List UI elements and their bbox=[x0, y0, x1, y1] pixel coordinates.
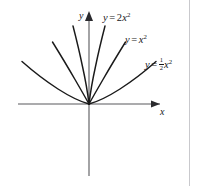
curve-label-2x-squared: y=2x2 bbox=[103, 13, 130, 24]
curve-label-half-x-squared-eq: = bbox=[150, 59, 159, 70]
curve-2x2-left-branch bbox=[73, 26, 89, 104]
y-axis-arrowhead bbox=[85, 11, 93, 21]
curve-label-x-squared-eq: = bbox=[130, 34, 139, 45]
curve-2x2-right-branch bbox=[89, 26, 105, 104]
curve-label-half-x-squared-exp: 2 bbox=[169, 58, 173, 65]
plot-canvas bbox=[0, 0, 198, 186]
x-axis-label: x bbox=[160, 107, 164, 117]
fraction-denominator: 2 bbox=[159, 65, 163, 72]
curve-label-2x-squared-exp: 2 bbox=[127, 11, 131, 18]
curve-label-half-x-squared-fraction: 12 bbox=[159, 57, 163, 71]
curve-label-x-squared-exp: 2 bbox=[144, 33, 148, 40]
parabola-figure: y x y=2x2 y=x2 y=12x2 bbox=[0, 0, 198, 186]
curve-label-x-squared: y=x2 bbox=[125, 35, 147, 46]
curve-label-2x-squared-eq: = bbox=[108, 12, 117, 23]
curve-halfx2-left-branch bbox=[22, 62, 89, 105]
curve-label-half-x-squared: y=12x2 bbox=[145, 57, 172, 71]
y-axis-label: y bbox=[79, 11, 83, 21]
x-axis-arrowhead bbox=[151, 100, 160, 107]
